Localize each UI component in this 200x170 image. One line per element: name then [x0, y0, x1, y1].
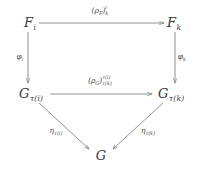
top-arrow-label-indices: ik — [105, 6, 108, 16]
right-vertical-arrow-label: φk — [178, 53, 186, 61]
middle-arrow-label: (ρG)τ(i)τ(k) — [88, 76, 112, 86]
middle-arrow-label-base-subscript: G — [95, 80, 99, 86]
right-diagonal-arrow-label: ητ(k) — [141, 127, 155, 135]
node-G-tau-i-base: G — [19, 86, 30, 101]
node-G-tau-i-subscript: τ(i) — [30, 93, 43, 102]
right-vertical-arrow-label-subscript: k — [183, 56, 186, 62]
node-F-k-subscript: k — [177, 22, 182, 31]
right-diagonal-arrow-label-subscript: τ(k) — [145, 130, 155, 136]
middle-arrow-label-subscript: τ(k) — [102, 81, 112, 86]
node-G-tau-k-subscript: τ(k) — [169, 93, 184, 102]
top-arrow-label-base-subscript: F — [99, 10, 102, 16]
node-F-i: Fi — [24, 16, 36, 29]
left-diagonal-arrow-label-subscript: τ(i) — [54, 130, 62, 136]
left-vertical-arrow-label-subscript: i — [22, 56, 24, 62]
top-arrow-label: (ρF)ik — [92, 6, 109, 16]
commutative-diagram: Fi Fk Gτ(i) Gτ(k) G (ρF)ik (ρG)τ(i)τ(k) … — [0, 0, 200, 170]
left-diagonal-arrow — [39, 103, 89, 149]
left-vertical-arrow-label: φi — [17, 53, 24, 61]
top-arrow-label-subscript: k — [105, 11, 108, 16]
node-F-k: Fk — [167, 16, 181, 29]
node-G-tau-k: Gτ(k) — [158, 87, 184, 100]
node-F-i-base: F — [24, 15, 33, 30]
middle-arrow-label-superscript: τ(i) — [102, 75, 112, 80]
middle-arrow-label-indices: τ(i)τ(k) — [102, 76, 112, 86]
left-diagonal-arrow-label: ητ(i) — [50, 127, 63, 135]
top-arrow-label-superscript: i — [105, 5, 108, 10]
node-G-base: G — [96, 148, 107, 163]
node-F-i-subscript: i — [34, 22, 37, 31]
node-G-tau-k-base: G — [158, 86, 169, 101]
right-diagonal-arrow — [113, 103, 163, 149]
left-diagonal-arrow-label-base: η — [50, 126, 55, 135]
node-G: G — [96, 149, 107, 162]
right-diagonal-arrow-label-base: η — [141, 126, 146, 135]
node-G-tau-i: Gτ(i) — [19, 87, 43, 100]
node-F-k-base: F — [167, 15, 176, 30]
